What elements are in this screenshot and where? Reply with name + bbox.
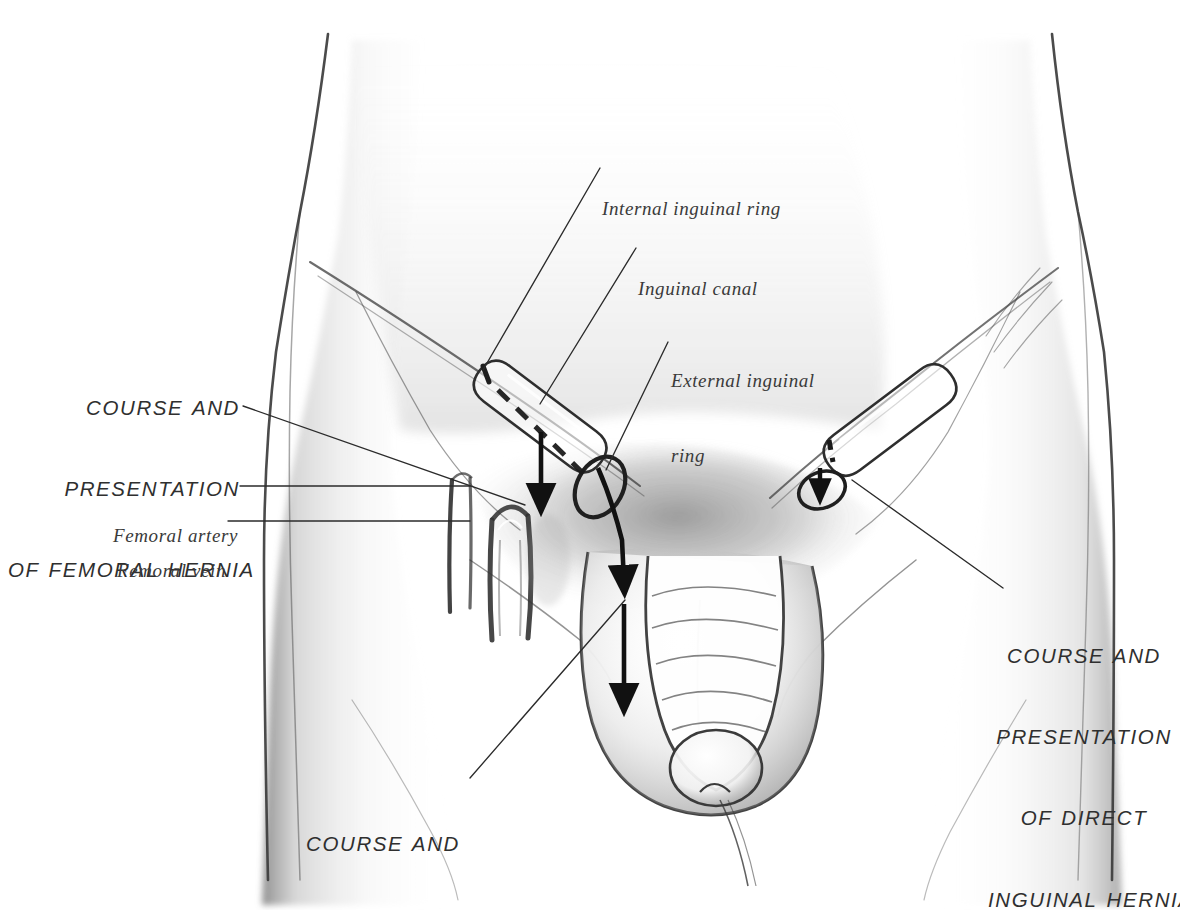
label-direct-inguinal-hernia: COURSE AND PRESENTATION OF DIRECT INGUIN…: [988, 588, 1180, 910]
external-genitalia: [581, 548, 823, 886]
label-indirect-inguinal-hernia-line-1: COURSE AND: [268, 830, 498, 857]
label-femoral-vein: Femoral vein: [20, 508, 226, 633]
label-direct-inguinal-hernia-line-3: OF DIRECT: [988, 804, 1180, 831]
label-external-inguinal-ring: External inguinal ring: [671, 318, 815, 519]
label-inguinal-canal-text: Inguinal canal: [638, 276, 758, 301]
femoral-artery-structure: [449, 473, 472, 612]
label-femoral-vein-text: Femoral vein: [20, 558, 226, 583]
figure-canvas: Internal inguinal ring Inguinal canal Ex…: [0, 0, 1180, 910]
label-direct-inguinal-hernia-line-4: INGUINAL HERNIA: [988, 886, 1180, 910]
label-internal-inguinal-ring-text: Internal inguinal ring: [602, 196, 781, 221]
label-direct-inguinal-hernia-line-1: COURSE AND: [988, 642, 1180, 669]
label-femoral-hernia-line-1: COURSE AND: [8, 394, 240, 421]
label-external-inguinal-ring-line-1: External inguinal: [671, 368, 815, 393]
label-external-inguinal-ring-line-2: ring: [671, 443, 815, 468]
leader-direct-inguinal-hernia: [852, 480, 1003, 588]
label-indirect-inguinal-hernia: COURSE AND PRESENTATION OF INDIRECT INGU…: [268, 776, 498, 910]
label-direct-inguinal-hernia-line-2: PRESENTATION: [988, 723, 1180, 750]
